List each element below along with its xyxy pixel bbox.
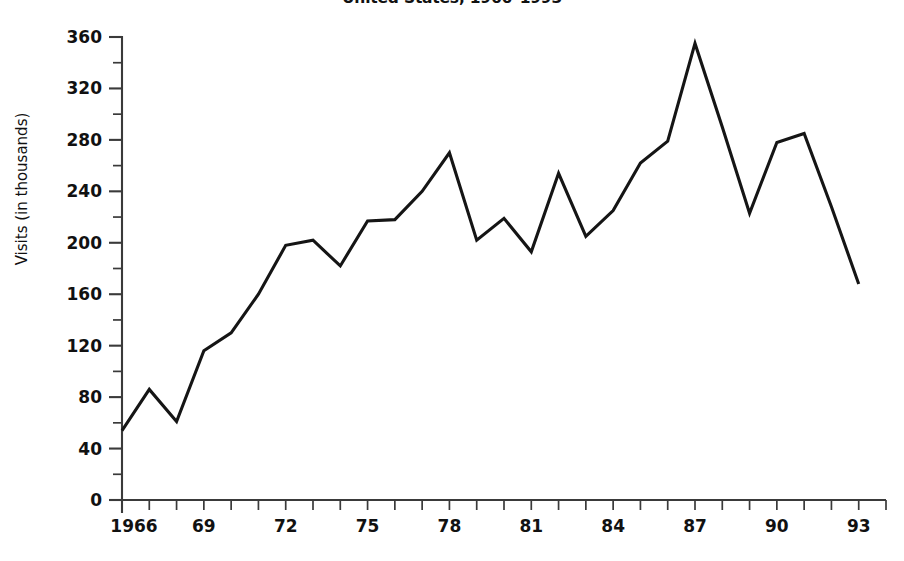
x-tick-label: 84: [601, 516, 625, 536]
y-tick-label: 200: [67, 233, 103, 253]
x-tick-label: 90: [765, 516, 789, 536]
y-tick-label: 40: [78, 439, 102, 459]
chart-container: United States, 1966–1993 Visits (in thou…: [0, 0, 904, 561]
x-tick-label: 72: [274, 516, 298, 536]
y-tick-label: 360: [67, 27, 103, 47]
data-series-line: [122, 43, 859, 430]
y-tick-label: 80: [78, 387, 102, 407]
y-tick-label: 240: [67, 181, 103, 201]
x-tick-label: 93: [847, 516, 871, 536]
x-tick-label: 87: [683, 516, 707, 536]
y-tick-label: 120: [67, 336, 103, 356]
x-tick-label: 75: [356, 516, 380, 536]
plot-area: 04080120160200240280320360 1966697275788…: [0, 0, 904, 561]
x-tick-label: 81: [519, 516, 543, 536]
y-tick-label: 160: [67, 284, 103, 304]
y-axis-ticks: 04080120160200240280320360: [67, 27, 123, 510]
x-tick-label: 69: [192, 516, 216, 536]
y-tick-label: 320: [67, 78, 103, 98]
y-tick-label: 0: [90, 490, 102, 510]
y-tick-label: 280: [67, 130, 103, 150]
x-axis-ticks: 1966697275788184879093: [110, 500, 886, 536]
x-tick-label: 78: [438, 516, 462, 536]
x-tick-label: 1966: [110, 516, 157, 536]
